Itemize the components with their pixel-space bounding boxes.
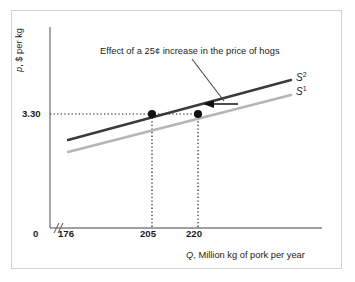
x-axis-label-rest: , Million kg of pork per year [193, 250, 305, 260]
curve-label-s2-sup: 2 [303, 71, 307, 78]
figure-root: Effect of a 25¢ increase in the price of… [0, 0, 355, 282]
supply-curve-s1 [68, 95, 291, 152]
y-axis-label-rest: , $ per kg [14, 28, 24, 67]
curve-label-s2-base: S [296, 72, 303, 83]
point-s2 [148, 110, 156, 118]
shift-annotation-text: Effect of a 25¢ increase in the price of… [100, 46, 280, 56]
x-tick-label-220: 220 [186, 228, 202, 239]
y-tick-label-3-30: 3.30 [22, 108, 41, 119]
curve-label-s1-sup: 1 [303, 85, 307, 92]
x-tick-label-176: 176 [58, 228, 74, 239]
supply-curve-chart [0, 0, 355, 282]
supply-curve-s2 [68, 80, 291, 140]
y-axis-label-symbol: p [14, 67, 24, 72]
x-axis-label: Q, Million kg of pork per year [186, 250, 305, 260]
x-tick-label-0: 0 [33, 228, 38, 239]
curve-label-s1: S1 [296, 85, 307, 97]
point-s1 [194, 110, 202, 118]
y-axis-label: p, $ per kg [14, 15, 24, 85]
curve-label-s2: S2 [296, 71, 307, 83]
curve-label-s1-base: S [296, 86, 303, 97]
x-tick-label-205: 205 [140, 228, 156, 239]
annotation-leader-line [192, 59, 224, 101]
